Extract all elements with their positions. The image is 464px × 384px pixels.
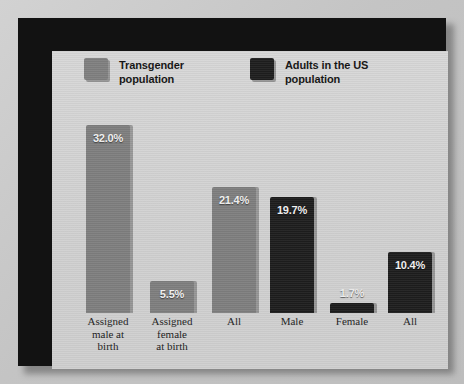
axis-label-transgender-all: All (204, 315, 264, 328)
chart-plot-area: 32.0% 5.5% 21.4% 19.7% (52, 107, 448, 313)
bar-slot-female: 1.7% (330, 107, 374, 313)
axis-label-us-adults-all: All (380, 315, 440, 328)
legend-swatch-dark-icon (250, 58, 274, 80)
bar-slot-transgender-all: 21.4% (212, 107, 256, 313)
legend-label-transgender-population: Transgender population (119, 58, 184, 86)
axis-label-female: Female (322, 315, 382, 328)
chart-category-axis: Assigned male at birth Assigned female a… (52, 315, 448, 369)
axis-label-assigned-male-at-birth: Assigned male at birth (78, 315, 138, 353)
chart-panel: Transgender population Adults in the US … (52, 51, 448, 369)
bar-value-male: 19.7% (270, 204, 314, 216)
bar-value-us-adults-all: 10.4% (388, 259, 432, 271)
bar-us-adults-all[interactable]: 10.4% (388, 252, 432, 313)
bar-male[interactable]: 19.7% (270, 197, 314, 313)
axis-label-male: Male (262, 315, 322, 328)
bar-slot-assigned-male-at-birth: 32.0% (86, 107, 130, 313)
bar-value-female: 1.7% (330, 287, 374, 299)
legend-label-us-adults-population: Adults in the US population (285, 58, 368, 86)
bar-value-assigned-female-at-birth: 5.5% (150, 288, 194, 300)
chart-frame: Transgender population Adults in the US … (18, 18, 446, 366)
bar-transgender-all[interactable]: 21.4% (212, 187, 256, 313)
bar-female[interactable]: 1.7% (330, 303, 374, 313)
legend-item-us-adults-population[interactable]: Adults in the US population (250, 58, 368, 86)
bar-value-transgender-all: 21.4% (212, 194, 256, 206)
bar-slot-us-adults-all: 10.4% (388, 107, 432, 313)
bar-slot-male: 19.7% (270, 107, 314, 313)
legend-item-transgender-population[interactable]: Transgender population (84, 58, 184, 86)
bar-assigned-male-at-birth[interactable]: 32.0% (86, 125, 130, 313)
chart-legend: Transgender population Adults in the US … (52, 51, 448, 107)
bar-value-assigned-male-at-birth: 32.0% (86, 132, 130, 144)
axis-label-assigned-female-at-birth: Assigned female at birth (142, 315, 202, 353)
bar-assigned-female-at-birth[interactable]: 5.5% (150, 281, 194, 313)
legend-swatch-gray-icon (84, 58, 108, 80)
chart-page: Transgender population Adults in the US … (0, 0, 464, 384)
bar-slot-assigned-female-at-birth: 5.5% (150, 107, 194, 313)
